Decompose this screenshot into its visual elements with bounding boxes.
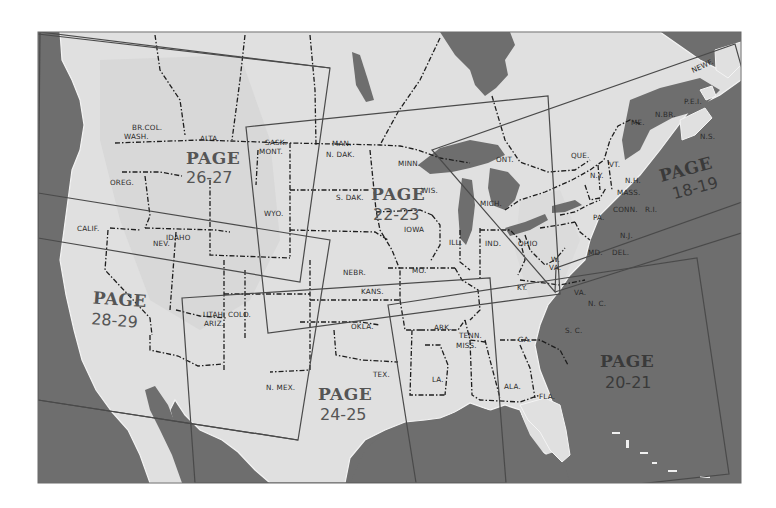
label-ns: N.S. [700,132,715,141]
label-n-mex: N. MEX. [266,383,295,392]
label-ind: IND. [485,239,501,248]
label-ont: ONT. [496,155,514,164]
label-ri: R.I. [645,205,657,214]
label-ariz: ARIZ. [204,319,224,328]
label-ill: ILL. [449,238,462,247]
label-me: ME. [631,118,645,127]
label-ny: N.Y. [590,171,604,180]
label-vt: VT. [609,160,620,169]
label-md: MD. [588,248,603,257]
label-ky: KY. [517,283,527,292]
label-oreg: OREG. [110,178,134,187]
label-del: DEL. [612,248,629,257]
label-colo: COLO. [228,310,251,319]
label-mo: MO. [412,266,426,275]
label-kans: KANS. [361,287,384,296]
label-ala: ALA. [504,382,521,391]
index-map: PAGE 26-27 PAGE 22-23 PAGE 18-19 PAGE 28… [0,0,776,508]
label-sask: SASK. [265,138,287,147]
page-number: 26-27 [186,168,233,187]
label-pa: PA. [593,213,605,222]
label-mass: MASS. [617,188,641,197]
label-okla: OKLA. [351,322,374,331]
label-que: QUE. [571,151,590,160]
label-la: LA. [432,375,444,384]
label-nev: NEV. [153,239,170,248]
label-utah: UTAH [203,310,223,319]
label-mich: MICH. [480,199,502,208]
label-man: MAN. [332,139,352,148]
label-br-col: BR.COL. [132,123,162,132]
label-conn: CONN. [613,205,638,214]
label-wyo: WYO. [264,209,284,218]
label-s-dak: S. DAK. [336,193,364,202]
label-minn: MINN. [398,159,420,168]
label-fla: FLA. [539,392,555,401]
page-label-26-27[interactable]: PAGE 26-27 [186,148,240,187]
page-number: 22-23 [373,205,420,224]
map-canvas: PAGE 26-27 PAGE 22-23 PAGE 18-19 PAGE 28… [0,0,776,508]
label-nc: N. C. [588,299,606,308]
page-word: PAGE [371,184,425,204]
label-miss: MISS. [456,341,477,350]
page-word: PAGE [186,148,240,168]
label-wash: WASH. [124,132,149,141]
label-nebr: NEBR. [343,268,366,277]
label-sc: S. C. [565,326,582,335]
page-number: 20-21 [605,373,652,392]
label-alta: ALTA. [200,134,220,143]
label-nh: N.H. [625,176,641,185]
page-word: PAGE [600,351,654,371]
label-w-va-2: VA. [549,263,561,272]
label-ga: GA. [518,335,531,344]
label-tex: TEX. [372,370,390,379]
label-ark: ARK. [434,323,452,332]
label-mont: MONT. [259,147,283,156]
page-word: PAGE [92,287,147,311]
label-va: VA. [574,288,586,297]
label-calif: CALIF. [77,224,100,233]
label-n-br: N.BR. [655,110,676,119]
label-tenn: TENN. [458,331,482,340]
label-nj: N.J. [620,231,633,240]
page-word: PAGE [318,384,372,404]
label-pei: P.E.I. [684,97,702,106]
label-wis: WIS. [421,186,438,195]
page-number: 24-25 [320,405,367,424]
page-number: 28-29 [91,309,139,331]
label-ohio: OHIO [518,239,538,248]
label-n-dak: N. DAK. [326,150,355,159]
label-iowa: IOWA [404,225,424,234]
